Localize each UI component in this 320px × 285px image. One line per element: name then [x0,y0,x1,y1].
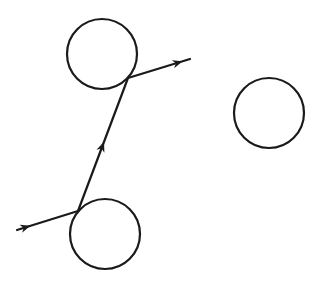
scattering-diagram [0,0,320,285]
circle-bottom [70,199,140,269]
circle-right [234,78,304,148]
circle-top [67,19,137,89]
